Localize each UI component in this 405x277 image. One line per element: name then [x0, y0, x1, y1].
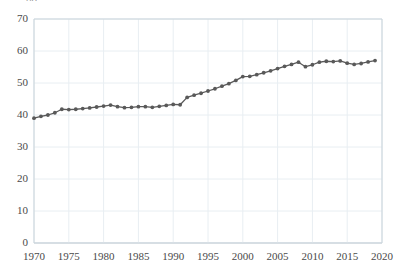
- y-axis-tick-label: 60: [2, 45, 28, 56]
- data-point-marker: [130, 105, 134, 109]
- data-point-marker: [32, 116, 36, 120]
- data-point-marker: [39, 114, 43, 118]
- data-point-marker: [220, 84, 224, 88]
- y-axis-tick-label: 0: [2, 237, 28, 248]
- data-point-marker: [137, 105, 141, 109]
- data-point-marker: [324, 59, 328, 63]
- grid-lines: [34, 19, 382, 243]
- x-axis-tick-label: 2020: [362, 251, 402, 262]
- data-point-marker: [81, 107, 85, 111]
- data-point-marker: [290, 63, 294, 67]
- data-point-marker: [109, 103, 113, 107]
- data-point-marker: [192, 93, 196, 97]
- data-point-marker: [311, 63, 315, 67]
- data-point-marker: [102, 104, 106, 108]
- data-line: [34, 61, 375, 119]
- data-point-marker: [248, 74, 252, 78]
- data-point-marker: [234, 79, 238, 83]
- data-point-marker: [255, 73, 259, 77]
- data-point-marker: [283, 64, 287, 68]
- y-axis-tick-label: 40: [2, 109, 28, 120]
- data-point-marker: [352, 63, 356, 67]
- data-point-marker: [338, 59, 342, 63]
- data-point-marker: [206, 89, 210, 93]
- data-point-marker: [116, 105, 120, 109]
- y-axis-tick-label: 50: [2, 77, 28, 88]
- data-point-marker: [171, 103, 175, 107]
- data-point-marker: [60, 107, 64, 111]
- data-point-marker: [185, 96, 189, 100]
- line-chart: 80 010203040506070 197019751980198519901…: [0, 0, 405, 277]
- data-point-marker: [88, 106, 92, 110]
- data-point-marker: [143, 105, 147, 109]
- data-point-marker: [276, 67, 280, 71]
- data-point-marker: [373, 59, 377, 63]
- data-point-marker: [150, 105, 154, 109]
- data-point-marker: [317, 60, 321, 64]
- data-markers: [32, 59, 377, 120]
- data-point-marker: [157, 104, 161, 108]
- data-point-marker: [46, 113, 50, 117]
- data-point-marker: [262, 71, 266, 75]
- data-point-marker: [345, 61, 349, 65]
- y-axis-tick-label: 20: [2, 173, 28, 184]
- data-point-marker: [67, 108, 71, 112]
- data-point-marker: [359, 62, 363, 66]
- data-point-marker: [199, 91, 203, 95]
- y-axis-tick-label: 10: [2, 205, 28, 216]
- data-point-marker: [95, 105, 99, 109]
- data-point-marker: [53, 111, 57, 115]
- y-axis-tick-label: 30: [2, 141, 28, 152]
- data-point-marker: [74, 107, 78, 111]
- data-point-marker: [213, 87, 217, 91]
- data-point-marker: [123, 106, 127, 110]
- data-point-marker: [366, 60, 370, 64]
- data-point-marker: [331, 60, 335, 64]
- data-point-marker: [164, 104, 168, 108]
- data-point-marker: [227, 82, 231, 86]
- data-point-marker: [269, 69, 273, 73]
- chart-plot-area: [0, 0, 405, 277]
- data-point-marker: [178, 103, 182, 107]
- data-point-marker: [297, 60, 301, 64]
- data-point-marker: [304, 65, 308, 69]
- y-axis-tick-label: 70: [2, 13, 28, 24]
- data-point-marker: [241, 75, 245, 79]
